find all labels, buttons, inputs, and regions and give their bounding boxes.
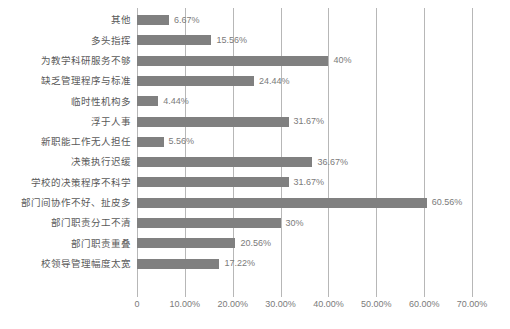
- bar-value-label: 6.67%: [174, 16, 200, 25]
- x-tick: [376, 292, 377, 297]
- bar: [137, 198, 427, 208]
- x-tick: [185, 292, 186, 297]
- x-tick-label: 10.00%: [170, 300, 201, 309]
- category-label: 部门职责分工不清: [51, 213, 131, 233]
- bar-value-label: 4.44%: [163, 97, 189, 106]
- x-tick-label: 20.00%: [217, 300, 248, 309]
- x-tick: [328, 292, 329, 297]
- bar: [137, 238, 235, 248]
- bar: [137, 35, 211, 45]
- x-tick-label: 70.00%: [457, 300, 488, 309]
- category-label: 部门职责重叠: [71, 233, 131, 253]
- category-label: 多头指挥: [91, 30, 131, 50]
- bar-row: 20.56%: [137, 233, 472, 253]
- plot-area: 6.67%15.56%40%24.44%4.44%31.67%5.56%36.6…: [137, 8, 472, 292]
- gridline: [472, 8, 473, 292]
- x-tick: [281, 292, 282, 297]
- bar-value-label: 15.56%: [216, 36, 247, 45]
- bar-value-label: 20.56%: [240, 239, 271, 248]
- x-tick-label: 60.00%: [409, 300, 440, 309]
- bar-row: 31.67%: [137, 111, 472, 131]
- bar-value-label: 40%: [333, 56, 351, 65]
- bar-value-label: 36.67%: [317, 158, 348, 167]
- bar: [137, 96, 158, 106]
- bar-value-label: 60.56%: [432, 198, 463, 207]
- category-label: 决策执行迟缓: [71, 152, 131, 172]
- x-tick-label: 0: [134, 300, 139, 309]
- x-tick-label: 50.00%: [361, 300, 392, 309]
- category-label: 其他: [111, 10, 131, 30]
- bar-value-label: 5.56%: [169, 137, 195, 146]
- bar-row: 40%: [137, 51, 472, 71]
- bar-row: 30%: [137, 213, 472, 233]
- bar-row: 31.67%: [137, 172, 472, 192]
- bar-row: 4.44%: [137, 91, 472, 111]
- bar-row: 5.56%: [137, 132, 472, 152]
- x-tick: [233, 292, 234, 297]
- bar-value-label: 30%: [286, 219, 304, 228]
- category-label: 浮于人事: [91, 111, 131, 131]
- bar: [137, 218, 281, 228]
- category-label: 临时性机构多: [71, 91, 131, 111]
- bar: [137, 117, 289, 127]
- bar-row: 60.56%: [137, 193, 472, 213]
- category-label: 为教学科研服务不够: [41, 51, 131, 71]
- bar-row: 36.67%: [137, 152, 472, 172]
- bar-row: 15.56%: [137, 30, 472, 50]
- bar-value-label: 17.22%: [224, 259, 255, 268]
- bar: [137, 137, 164, 147]
- category-label: 校领导管理幅度太宽: [41, 253, 131, 273]
- bar-chart: 其他多头指挥为教学科研服务不够缺乏管理程序与标准临时性机构多浮于人事新职能工作无…: [0, 0, 510, 329]
- bar-row: 17.22%: [137, 253, 472, 273]
- bar-row: 6.67%: [137, 10, 472, 30]
- bar-value-label: 24.44%: [259, 77, 290, 86]
- bar-value-label: 31.67%: [294, 178, 325, 187]
- x-tick-label: 30.00%: [265, 300, 296, 309]
- x-tick-label: 40.00%: [313, 300, 344, 309]
- x-tick: [472, 292, 473, 297]
- category-label: 学校的决策程序不科学: [31, 172, 131, 192]
- bar: [137, 157, 312, 167]
- category-axis: 其他多头指挥为教学科研服务不够缺乏管理程序与标准临时性机构多浮于人事新职能工作无…: [0, 8, 131, 292]
- bar-rows: 6.67%15.56%40%24.44%4.44%31.67%5.56%36.6…: [137, 8, 472, 292]
- bar: [137, 56, 328, 66]
- x-tick: [137, 292, 138, 297]
- value-axis: 010.00%20.00%30.00%40.00%50.00%60.00%70.…: [137, 292, 472, 322]
- category-label: 缺乏管理程序与标准: [41, 71, 131, 91]
- bar-value-label: 31.67%: [294, 117, 325, 126]
- category-label: 新职能工作无人担任: [41, 132, 131, 152]
- x-tick: [424, 292, 425, 297]
- bar-row: 24.44%: [137, 71, 472, 91]
- bar: [137, 15, 169, 25]
- category-label: 部门间协作不好、扯皮多: [21, 193, 131, 213]
- bar: [137, 259, 219, 269]
- bar: [137, 76, 254, 86]
- bar: [137, 177, 289, 187]
